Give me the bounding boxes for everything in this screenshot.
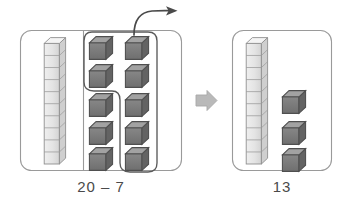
right-ones-cubes [282,91,305,172]
cube [282,122,305,145]
cube [125,37,148,60]
equals-block-arrow [196,91,217,111]
cube [125,122,148,145]
cube [89,65,112,88]
cube [89,94,112,117]
cube [89,148,112,171]
figure-canvas: 20 – 7 13 20 - 7 13 [0,0,341,212]
cube [125,94,148,117]
cube [125,148,148,171]
cube [282,91,305,114]
right-tens-rod [246,38,267,164]
cube [282,149,305,172]
cube [125,65,148,88]
right-result-label: 13 [232,178,332,195]
cube [89,37,112,60]
left-tens-rod [44,38,65,164]
cube [89,122,112,145]
left-expression-label: 20 – 7 [20,178,182,195]
